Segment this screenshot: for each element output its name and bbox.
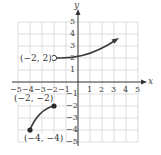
open-point-icon	[51, 55, 56, 60]
x-axis-label: x	[148, 76, 153, 86]
y-axis-label: y	[74, 0, 79, 10]
closed-point-icon	[51, 103, 56, 108]
x-tick: 3	[111, 86, 116, 94]
x-tick: 4	[123, 86, 128, 94]
y-tick: −1	[66, 90, 78, 98]
y-tick: 5	[70, 18, 75, 26]
curve-piece-2	[57, 40, 117, 58]
closed-point-icon	[27, 127, 32, 132]
x-tick: 5	[135, 86, 140, 94]
x-axis-arrow-icon	[141, 80, 147, 85]
y-tick: −3	[66, 114, 78, 122]
point-label-open: (−2, 2)	[20, 54, 52, 63]
x-tick: 2	[99, 86, 104, 94]
y-tick: 3	[70, 42, 75, 50]
y-tick: −5	[66, 138, 78, 146]
point-label-b: (−4, −4)	[24, 134, 63, 143]
y-tick: −2	[66, 102, 78, 110]
y-tick: 1	[70, 66, 75, 74]
y-tick: 2	[70, 54, 75, 62]
y-tick: 4	[70, 30, 75, 38]
coordinate-plane	[0, 0, 161, 155]
x-tick: 1	[87, 86, 92, 94]
y-tick: −4	[66, 126, 78, 134]
point-label-a: (−2, −2)	[14, 94, 53, 103]
